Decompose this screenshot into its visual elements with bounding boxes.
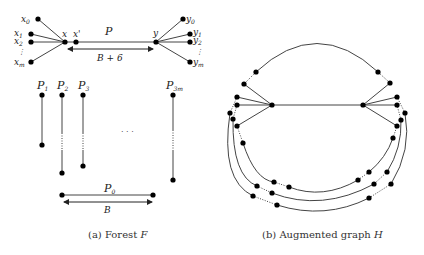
- svg-text:B: B: [103, 205, 111, 215]
- svg-text:B + 6: B + 6: [96, 53, 123, 63]
- svg-text:x': x': [73, 29, 81, 39]
- svg-text:P1: P1: [36, 79, 48, 92]
- svg-text:y0: y0: [185, 14, 195, 25]
- svg-text:P3: P3: [77, 79, 89, 92]
- svg-text:xm: xm: [14, 57, 25, 68]
- svg-text:P: P: [104, 25, 113, 38]
- svg-text:x: x: [62, 29, 67, 39]
- caption-b: (b) Augmented graph H: [262, 229, 383, 240]
- svg-text:x0: x0: [21, 14, 30, 25]
- caption-a: (a) Forest F: [88, 229, 148, 240]
- svg-text:y: y: [152, 28, 159, 38]
- forest-labels: x0 x1 x2 ⋮ xm x x' y P B + 6 y0 y1 y2 ⋮ …: [14, 14, 204, 215]
- figure-canvas: x0 x1 x2 ⋮ xm x x' y P B + 6 y0 y1 y2 ⋮ …: [0, 0, 424, 255]
- svg-text:⋮: ⋮: [18, 48, 25, 56]
- forest-nodes: [28, 16, 192, 197]
- forest-figure: [31, 19, 190, 202]
- svg-text:P0: P0: [103, 182, 115, 195]
- svg-text:· · ·: · · ·: [121, 127, 134, 136]
- svg-text:⋮: ⋮: [196, 48, 203, 56]
- svg-text:P2: P2: [56, 79, 68, 92]
- svg-text:ym: ym: [192, 57, 204, 68]
- svg-text:P3m: P3m: [165, 79, 183, 92]
